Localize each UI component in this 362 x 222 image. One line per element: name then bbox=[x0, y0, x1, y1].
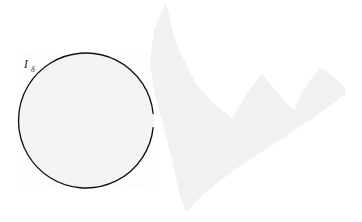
circle-interior-fill bbox=[19, 53, 154, 188]
label-I-delta-subscript: δ bbox=[31, 65, 35, 74]
figure-svg: I δ bbox=[0, 0, 362, 222]
circle-I-delta bbox=[19, 53, 154, 188]
figure-canvas: I δ bbox=[0, 0, 362, 222]
